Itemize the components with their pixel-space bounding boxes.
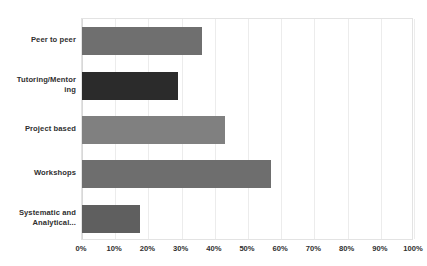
x-tick-label: 10% [107, 243, 122, 254]
x-tick-label: 90% [372, 243, 387, 254]
x-tick-label: 0% [76, 243, 87, 254]
x-tick-label: 40% [206, 243, 221, 254]
category-label: Peer to peer [0, 35, 76, 45]
category-label: Project based [0, 124, 76, 134]
x-tick-label: 70% [306, 243, 321, 254]
category-axis-labels: Peer to peerTutoring/MentoringProject ba… [0, 18, 76, 240]
x-tick-label: 30% [173, 243, 188, 254]
bar [82, 205, 140, 233]
x-tick-label: 100% [403, 243, 422, 254]
bar [82, 27, 202, 55]
category-label: Workshops [0, 168, 76, 178]
category-label-line: Systematic and [0, 208, 76, 218]
x-axis-tick-labels: 0%10%20%30%40%50%60%70%80%90%100% [81, 243, 413, 259]
bar-chart: Peer to peerTutoring/MentoringProject ba… [0, 0, 427, 266]
bar [82, 72, 178, 100]
x-tick-label: 60% [273, 243, 288, 254]
plot-area [81, 18, 413, 240]
category-label-line: ing [0, 85, 76, 95]
category-label-line: Workshops [0, 168, 76, 178]
category-label-line: Peer to peer [0, 35, 76, 45]
category-label: Systematic andAnalytical... [0, 208, 76, 228]
bar [82, 116, 225, 144]
bars-group [82, 19, 412, 239]
bar [82, 160, 271, 188]
category-label-line: Analytical... [0, 218, 76, 228]
x-tick-label: 80% [339, 243, 354, 254]
category-label-line: Project based [0, 124, 76, 134]
category-label-line: Tutoring/Mentor [0, 75, 76, 85]
x-tick-label: 20% [140, 243, 155, 254]
x-tick-label: 50% [239, 243, 254, 254]
gridline-100pct [414, 19, 415, 239]
category-label: Tutoring/Mentoring [0, 75, 76, 95]
